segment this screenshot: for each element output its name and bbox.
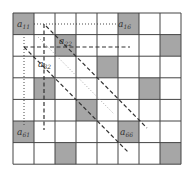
shaded-cell [97,56,118,78]
empty-cell [13,35,34,57]
empty-cell [139,99,160,121]
empty-cell [13,143,34,165]
matrix-canvas: a11a16a22a32a61a66 [0,0,188,177]
empty-cell [55,121,76,143]
empty-cell [55,99,76,121]
shaded-cell [139,78,160,100]
empty-cell [97,99,118,121]
empty-cell [55,56,76,78]
empty-cell [13,99,34,121]
empty-cell [97,143,118,165]
empty-cell [139,56,160,78]
empty-cell [139,121,160,143]
empty-cell [13,56,34,78]
empty-cell [118,56,139,78]
empty-cell [118,35,139,57]
empty-cell [160,56,181,78]
empty-cell [139,35,160,57]
empty-cell [139,13,160,35]
empty-cell [160,121,181,143]
shaded-cell [160,143,181,165]
shaded-cell [160,35,181,57]
empty-cell [97,35,118,57]
empty-cell [76,143,97,165]
shaded-cell [55,143,76,165]
empty-cell [34,143,55,165]
empty-cell [76,121,97,143]
matrix-diagram: a11a16a22a32a61a66 [0,0,188,177]
empty-cell [76,78,97,100]
empty-cell [13,78,34,100]
empty-cell [139,143,160,165]
empty-cell [118,78,139,100]
empty-cell [160,99,181,121]
empty-cell [160,13,181,35]
empty-cell [76,35,97,57]
empty-cell [160,78,181,100]
